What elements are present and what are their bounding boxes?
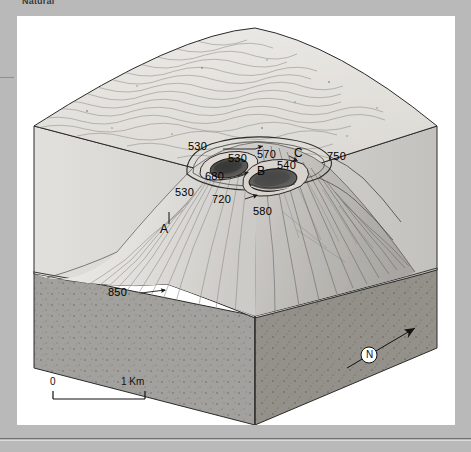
contour-label-530-top: 530 [188,140,207,152]
contour-label-720: 720 [212,193,231,205]
contour-label-750: 750 [327,150,346,162]
contour-label-570: 570 [257,148,276,160]
contour-label-850: 850 [108,286,127,298]
scale-bar-left-label: 0 [50,376,56,387]
contour-label-580: 580 [253,205,272,217]
bottom-divider [0,438,471,439]
contour-label-680: 680 [205,170,224,182]
page-root: Natural [0,0,471,452]
contour-label-530-mid: 530 [228,152,247,164]
block-diagram-svg [17,16,455,425]
block-diagram-figure: 530 530 570 750 540 680 530 720 580 850 … [17,16,455,425]
bottom-divider-highlight [0,440,471,441]
point-label-b: B [257,164,265,178]
cropped-caption: Natural [22,0,142,8]
contour-label-540: 540 [277,159,296,171]
north-arrow-label: N [366,349,373,360]
figure-panel: 530 530 570 750 540 680 530 720 580 850 … [17,16,455,425]
point-label-c: C [294,146,303,160]
cropped-caption-text: Natural [22,0,142,7]
left-margin-tick [0,77,14,78]
point-label-a: A [160,222,168,236]
scale-bar-right-label: 1 Km [121,376,144,387]
contour-label-530-left: 530 [175,186,194,198]
